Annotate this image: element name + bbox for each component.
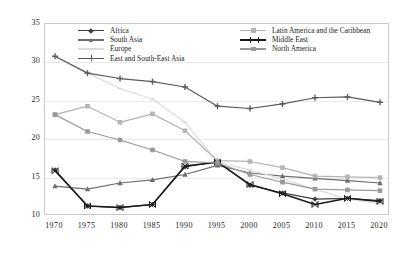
legend-marker-diamond [88, 28, 93, 33]
data-point-line [248, 169, 253, 170]
data-point-square [118, 138, 123, 143]
x-axis-tick-label: 2015 [338, 221, 356, 230]
legend-swatch-icon [78, 54, 104, 63]
legend-item-middle-east[interactable]: Middle East [240, 35, 370, 44]
data-point-square [118, 120, 123, 125]
x-axis-tick-label: 2000 [240, 221, 258, 230]
legend-item-north-america[interactable]: North America [240, 44, 370, 53]
x-axis-tick-label: 2020 [370, 221, 388, 230]
legend-column-right: Latin America and the CaribbeanMiddle Ea… [240, 26, 370, 54]
data-point-line [118, 88, 123, 89]
data-point-plus [117, 76, 123, 82]
data-point-plus [52, 53, 58, 59]
legend-item-latin-america-and-the-caribbean[interactable]: Latin America and the Caribbean [240, 26, 370, 35]
legend-swatch-icon [240, 44, 266, 53]
legend-item-east-and-south-east-asia[interactable]: East and South-East Asia [78, 54, 185, 63]
y-axis-tick-label: 10 [0, 211, 40, 219]
series-europe [53, 56, 383, 205]
chart-legend: AfricaSouth AsiaEuropeEast and South-Eas… [78, 26, 388, 66]
data-point-square [53, 112, 58, 117]
data-point-plus [150, 79, 156, 85]
legend-item-africa[interactable]: Africa [78, 26, 185, 35]
series-latin-america-and-the-caribbean [53, 104, 383, 180]
y-axis-tick-label: 35 [0, 19, 40, 27]
data-point-square [150, 112, 155, 117]
legend-label: North America [272, 44, 316, 53]
data-point-plus [247, 105, 253, 111]
y-axis-tick-label: 15 [0, 173, 40, 181]
legend-marker-bowtie [250, 37, 259, 43]
data-point-square [85, 129, 90, 134]
series-line [55, 162, 380, 207]
data-point-plus [345, 94, 351, 100]
data-point-line [183, 122, 188, 123]
x-axis-tick-label: 2005 [273, 221, 291, 230]
data-point-plus [280, 101, 286, 107]
data-point-plus [182, 84, 188, 90]
data-point-square [183, 128, 188, 133]
data-point-plus [215, 103, 221, 109]
data-point-square [150, 148, 155, 153]
legend-swatch-icon [78, 44, 104, 53]
data-point-square [248, 172, 253, 177]
data-point-square [345, 175, 350, 180]
y-axis-tick-label: 20 [0, 134, 40, 142]
series-north-america [53, 112, 383, 193]
legend-swatch-icon [240, 35, 266, 44]
data-point-square [215, 161, 220, 166]
data-point-square [183, 159, 188, 164]
x-axis-tick-label: 1995 [208, 221, 226, 230]
x-axis-tick-label: 1975 [78, 221, 96, 230]
series-line [55, 161, 380, 207]
series-line [55, 165, 380, 189]
legend-marker-square [251, 47, 256, 52]
legend-item-europe[interactable]: Europe [78, 44, 185, 53]
data-point-square [345, 188, 350, 193]
x-axis-tick-label: 1985 [143, 221, 161, 230]
legend-label: East and South-East Asia [110, 54, 185, 63]
data-point-square [378, 188, 383, 193]
legend-swatch-icon [78, 35, 104, 44]
x-axis-tick-label: 2010 [305, 221, 323, 230]
legend-label: Middle East [272, 35, 308, 44]
x-axis-tick-label: 1990 [175, 221, 193, 230]
legend-item-south-asia[interactable]: South Asia [78, 35, 185, 44]
legend-marker-triangle [89, 38, 93, 42]
data-point-square [378, 175, 383, 180]
data-point-square [280, 180, 285, 185]
x-axis-tick-label: 1970 [45, 221, 63, 230]
legend-swatch-icon [78, 26, 104, 35]
data-point-line [280, 178, 285, 179]
data-point-square [85, 104, 90, 109]
y-axis: 101520253035 [0, 0, 40, 262]
data-point-square [313, 174, 318, 179]
data-point-square [248, 159, 253, 164]
data-point-square [280, 165, 285, 170]
data-point-plus [312, 95, 318, 101]
legend-marker-square [251, 28, 256, 33]
data-point-line [150, 99, 155, 100]
x-axis-tick-label: 1980 [110, 221, 128, 230]
y-axis-tick-label: 25 [0, 96, 40, 104]
legend-label: South Asia [110, 35, 142, 44]
x-axis: 1970197519801985199019952000200520102015… [44, 221, 389, 235]
legend-label: Africa [110, 26, 129, 35]
data-point-plus [85, 70, 91, 76]
legend-marker-plus [91, 55, 93, 60]
line-chart-figure: 101520253035 AfricaSouth AsiaEuropeEast … [0, 0, 408, 262]
legend-label: Latin America and the Caribbean [272, 26, 370, 35]
legend-marker-line [89, 48, 94, 50]
data-point-diamond [312, 196, 317, 201]
y-axis-tick-label: 30 [0, 57, 40, 65]
data-point-plus [377, 99, 383, 105]
data-point-square [313, 187, 318, 192]
series-line [55, 56, 380, 203]
legend-label: Europe [110, 44, 131, 53]
legend-column-left: AfricaSouth AsiaEuropeEast and South-Eas… [78, 26, 185, 63]
legend-swatch-icon [240, 26, 266, 35]
